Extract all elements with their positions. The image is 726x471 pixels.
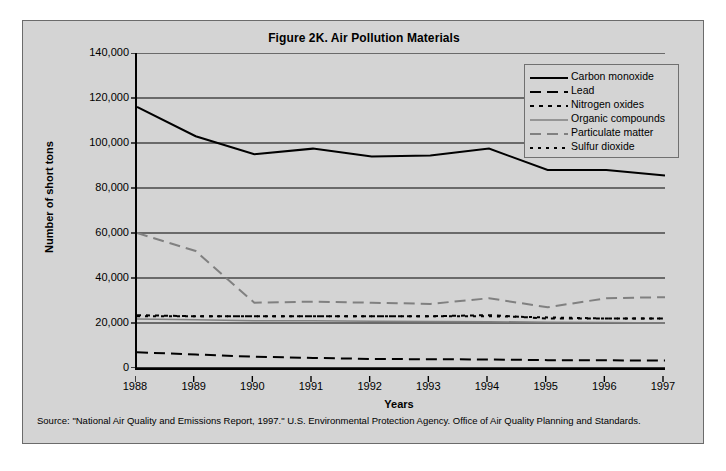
series-line <box>137 352 665 360</box>
y-axis-tick-label: 0 <box>69 362 129 373</box>
y-axis-tick-label: 40,000 <box>69 272 129 283</box>
legend-swatch-icon <box>529 112 569 124</box>
legend-item-label: Sulfur dioxide <box>569 140 635 152</box>
legend-item: Carbon monoxide <box>529 69 674 82</box>
legend-swatch-icon <box>529 98 569 110</box>
y-axis-tick-labels: 020,00040,00060,00080,000100,000120,0001… <box>63 53 129 368</box>
legend-item: Organic compounds <box>529 111 674 124</box>
y-axis-tick-label: 60,000 <box>69 227 129 238</box>
legend-item: Lead <box>529 83 674 96</box>
figure-title: Figure 2K. Air Pollution Materials <box>23 31 705 45</box>
y-axis-tick-label: 140,000 <box>69 47 129 58</box>
legend-item: Particulate matter <box>529 125 674 138</box>
figure-frame: Figure 2K. Air Pollution Materials 020,0… <box>22 20 704 444</box>
series-line <box>137 316 665 318</box>
legend-item-label: Organic compounds <box>569 112 665 124</box>
chart-legend: Carbon monoxideLeadNitrogen oxidesOrgani… <box>524 64 679 158</box>
x-axis-ticks <box>135 376 665 383</box>
y-axis-tick-label: 20,000 <box>69 317 129 328</box>
legend-item-label: Particulate matter <box>569 126 653 138</box>
source-note: Source: "National Air Quality and Emissi… <box>37 415 697 427</box>
legend-item-label: Lead <box>569 84 594 96</box>
x-axis-tick-labels: 1988198919901991199219931994199519961997 <box>135 376 665 392</box>
y-axis-ticks <box>131 53 137 368</box>
y-axis-tick-label: 80,000 <box>69 182 129 193</box>
series-line <box>137 233 665 307</box>
legend-item: Sulfur dioxide <box>529 139 674 152</box>
legend-swatch-icon <box>529 70 569 82</box>
x-axis-title: Years <box>135 398 663 410</box>
legend-item: Nitrogen oxides <box>529 97 674 110</box>
legend-swatch-icon <box>529 126 569 138</box>
legend-swatch-icon <box>529 140 569 152</box>
y-axis-title: Number of short tons <box>43 132 55 262</box>
legend-swatch-icon <box>529 84 569 96</box>
legend-item-label: Carbon monoxide <box>569 70 654 82</box>
legend-item-label: Nitrogen oxides <box>569 98 644 110</box>
y-axis-tick-label: 100,000 <box>69 137 129 148</box>
y-axis-tick-label: 120,000 <box>69 92 129 103</box>
series-line <box>137 319 665 323</box>
screenshot-root: Figure 2K. Air Pollution Materials 020,0… <box>0 0 726 471</box>
